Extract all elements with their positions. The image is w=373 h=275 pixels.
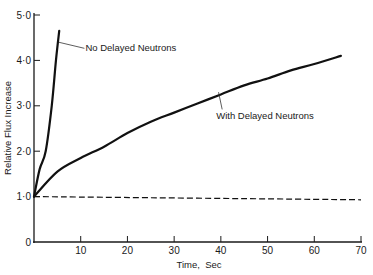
y-tick-label: 0 — [25, 237, 31, 248]
y-tick-label: 3·0 — [17, 100, 32, 111]
y-axis: 01·02·03·04·05·0 — [17, 10, 40, 248]
series-line — [34, 31, 59, 197]
x-axis: 10203040506070 — [33, 236, 367, 256]
annotation-label: No Delayed Neutrons — [85, 42, 176, 53]
x-tick-label: 40 — [215, 245, 227, 256]
series-line — [34, 56, 341, 197]
y-axis-label: Relative Flux Increase — [2, 81, 13, 175]
x-tick-label: 50 — [262, 245, 274, 256]
x-tick-label: 60 — [309, 245, 321, 256]
y-tick-label: 2·0 — [17, 146, 32, 157]
y-tick-label: 4·0 — [17, 55, 32, 66]
annotations: No Delayed NeutronsWith Delayed Neutrons — [59, 42, 314, 121]
flux-chart: 01·02·03·04·05·0 10203040506070 No Delay… — [0, 0, 373, 275]
x-tick-label: 30 — [169, 245, 181, 256]
y-tick-label: 5·0 — [17, 10, 32, 21]
series-line — [34, 197, 361, 200]
annotation-label: With Delayed Neutrons — [216, 110, 314, 121]
y-tick-label: 1·0 — [17, 191, 32, 202]
x-tick-label: 10 — [75, 245, 87, 256]
x-tick-label: 20 — [122, 245, 134, 256]
x-tick-label: 70 — [355, 245, 367, 256]
x-axis-label: Time, Sec — [176, 259, 221, 270]
